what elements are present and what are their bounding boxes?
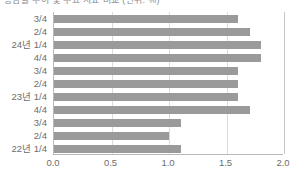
bar (54, 106, 250, 114)
bar (54, 145, 181, 153)
bar (54, 93, 238, 101)
bar-row (54, 119, 181, 127)
bar-row (54, 145, 181, 153)
y-axis-label: 4/4 (34, 51, 47, 64)
bar-row (54, 67, 238, 75)
bar-row (54, 93, 238, 101)
gridline (284, 12, 285, 154)
y-axis-label: 2/4 (34, 129, 47, 142)
y-axis-label: 3/4 (34, 64, 47, 77)
y-axis-label: 2/4 (34, 77, 47, 90)
x-axis-tick-label: 0.0 (46, 157, 59, 168)
y-axis-label: 23년 1/4 (12, 90, 47, 103)
bar (54, 119, 181, 127)
y-axis-label: 3/4 (34, 12, 47, 25)
y-axis-label: 3/4 (34, 116, 47, 129)
y-axis-label: 4/4 (34, 103, 47, 116)
bar-row (54, 41, 261, 49)
bar (54, 54, 261, 62)
bar-row (54, 54, 261, 62)
y-axis-category-labels: 3/42/424년 1/44/43/42/423년 1/44/43/42/422… (0, 12, 50, 155)
x-axis-tick-label: 2.0 (276, 157, 289, 168)
bar-row (54, 15, 238, 23)
bar-row (54, 80, 238, 88)
clipped-title-strip: 증감률 추이 및 주요 지표 비교 (단위: %) (0, 0, 298, 9)
bar (54, 41, 261, 49)
bar (54, 67, 238, 75)
bar (54, 80, 238, 88)
chart-title-clipped: 증감률 추이 및 주요 지표 비교 (단위: %) (4, 0, 160, 6)
bar-row (54, 106, 250, 114)
y-axis-label: 2/4 (34, 25, 47, 38)
bar-chart: 3/42/424년 1/44/43/42/423년 1/44/43/42/422… (0, 9, 298, 173)
x-axis-tick-label: 1.0 (161, 157, 174, 168)
bar (54, 28, 250, 36)
bar-row (54, 132, 169, 140)
x-axis-tick-label: 0.5 (104, 157, 117, 168)
bar (54, 15, 238, 23)
bar-series (54, 12, 283, 154)
bar-row (54, 28, 250, 36)
y-axis-label: 22년 1/4 (12, 142, 47, 155)
bar (54, 132, 169, 140)
y-axis-label: 24년 1/4 (12, 38, 47, 51)
x-axis-tick-labels: 0.00.51.01.52.0 (0, 157, 298, 171)
x-axis-tick-label: 1.5 (219, 157, 232, 168)
plot-area (53, 12, 283, 155)
